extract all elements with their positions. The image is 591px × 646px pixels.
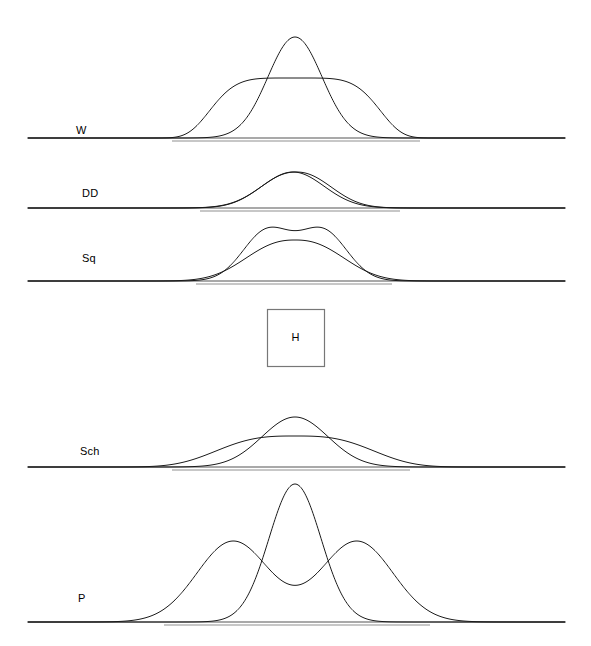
curve-gaussian-b [28, 172, 565, 208]
curve-flat-top [28, 78, 565, 138]
panel-label-sq: Sq [82, 253, 96, 264]
panel-label-sch: Sch [80, 446, 100, 457]
curve-flat-top [28, 436, 565, 467]
panel-label-w: W [76, 125, 87, 136]
lineshape-figure-canvas [0, 0, 591, 646]
panel-label-p: P [78, 593, 86, 604]
curve-bimodal-wide [28, 541, 565, 622]
panel-w [28, 37, 565, 141]
curve-bimodal [28, 227, 565, 281]
figure-root: W DD Sq Sch P H [0, 0, 591, 646]
curve-narrow-peak [28, 37, 565, 138]
panel-p [28, 484, 565, 625]
curve-gaussian-a [28, 172, 565, 208]
annotation-box-label-h: H [292, 332, 300, 343]
panel-label-dd: DD [82, 188, 98, 199]
panel-sq [28, 227, 565, 284]
panel-sch [28, 417, 565, 470]
panel-dd [28, 172, 565, 211]
curve-broad-bump [28, 240, 565, 281]
curve-peaked [28, 417, 565, 467]
curve-narrow-peak [28, 484, 565, 622]
